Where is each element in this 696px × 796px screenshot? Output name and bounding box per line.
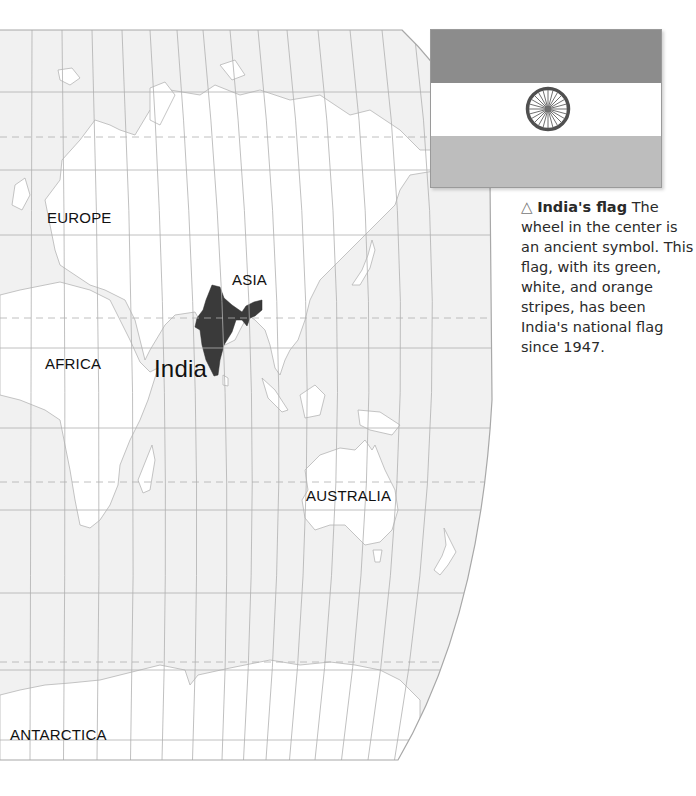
caption-title: India's flag — [537, 199, 627, 215]
label-india: India — [154, 355, 207, 383]
label-africa: AFRICA — [45, 355, 101, 372]
flag-stripe-top — [431, 30, 661, 83]
flag-caption: △ India's flag The wheel in the center i… — [521, 197, 696, 357]
land-tasmania — [373, 550, 382, 562]
flag-stripe-bottom — [431, 136, 661, 188]
label-antarctica: ANTARCTICA — [10, 726, 107, 743]
india-flag — [430, 29, 662, 188]
label-australia: AUSTRALIA — [306, 487, 391, 504]
label-europe: EUROPE — [47, 209, 112, 226]
triangle-up-icon: △ — [521, 198, 533, 216]
caption-body: The wheel in the center is an ancient sy… — [521, 199, 693, 355]
label-asia: ASIA — [232, 271, 267, 288]
wheel-icon — [525, 86, 571, 132]
